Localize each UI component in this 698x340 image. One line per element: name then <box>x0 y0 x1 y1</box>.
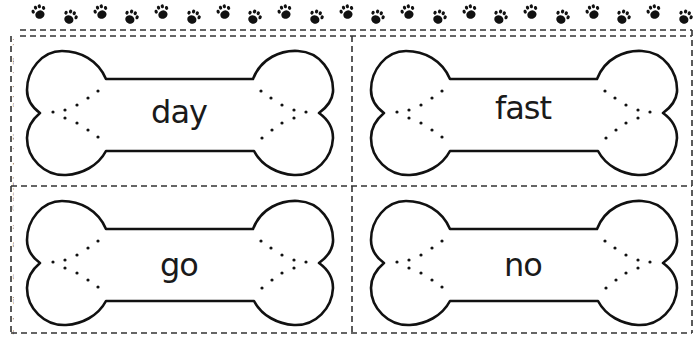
word-fast: fast <box>443 88 603 128</box>
word-day: day <box>99 92 259 132</box>
word-go: go <box>99 245 259 285</box>
word-no: no <box>443 245 603 285</box>
cut-out-sheet <box>0 0 698 340</box>
